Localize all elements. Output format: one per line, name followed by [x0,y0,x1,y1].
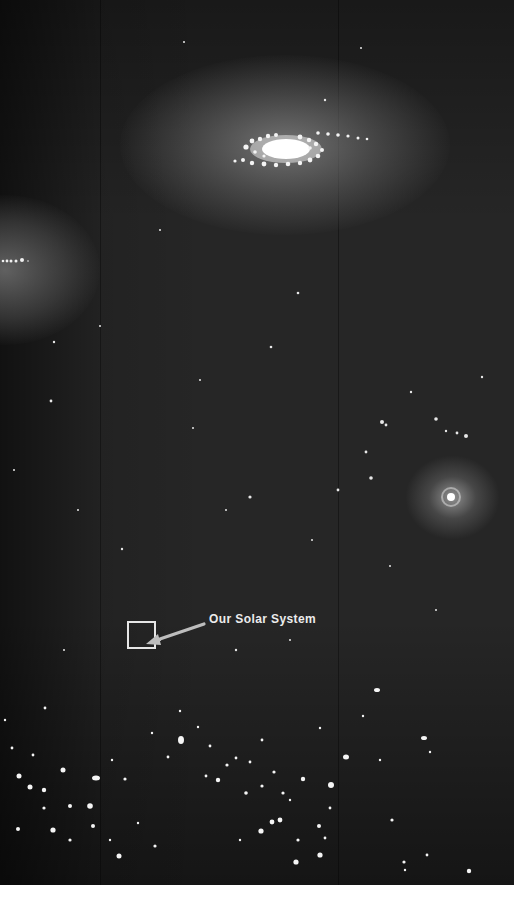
solar-system-label: Our Solar System [209,612,316,626]
pointer-arrow [0,0,514,885]
space-photo: Our Solar System [0,0,514,885]
